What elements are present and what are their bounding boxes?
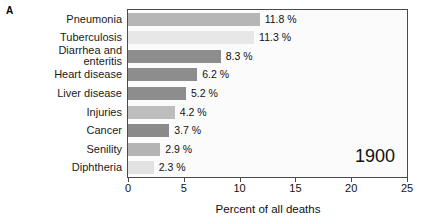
- category-label-line: Tuberculosis: [14, 32, 122, 43]
- category-label: Cancer: [14, 125, 122, 136]
- x-tick-label: 20: [345, 182, 357, 194]
- bar: [128, 68, 197, 81]
- x-tick-label: 5: [181, 182, 187, 194]
- bar-value-label: 2.9 %: [165, 143, 192, 156]
- bar: [128, 106, 175, 119]
- category-label-line: Pneumonia: [14, 14, 122, 25]
- category-label: Tuberculosis: [14, 32, 122, 43]
- x-tick-label: 0: [125, 182, 131, 194]
- bar: [128, 50, 221, 63]
- category-label-line: Senility: [14, 144, 122, 155]
- category-label-line: Cancer: [14, 125, 122, 136]
- category-label: Diarrhea andenteritis: [14, 45, 122, 67]
- bar-value-label: 3.7 %: [174, 124, 201, 137]
- bars-container: 11.8 %11.3 %8.3 %6.2 %5.2 %4.2 %3.7 %2.9…: [128, 10, 407, 177]
- category-label: Senility: [14, 144, 122, 155]
- panel-letter: A: [6, 5, 13, 16]
- bar: [128, 143, 160, 156]
- category-label-line: Injuries: [14, 107, 122, 118]
- category-label-line: Diphtheria: [14, 162, 122, 173]
- category-label: Pneumonia: [14, 14, 122, 25]
- category-label-line: Liver disease: [14, 88, 122, 99]
- x-axis: 0510152025: [128, 178, 408, 200]
- bar-value-label: 11.8 %: [265, 13, 297, 26]
- category-axis-labels: PneumoniaTuberculosisDiarrhea andenterit…: [14, 10, 122, 178]
- bar-value-label: 6.2 %: [202, 68, 229, 81]
- bar-value-label: 4.2 %: [180, 106, 207, 119]
- bar: [128, 124, 169, 137]
- x-tick-label: 15: [289, 182, 301, 194]
- figure-panel-a: A PneumoniaTuberculosisDiarrhea andenter…: [0, 0, 430, 224]
- bar: [128, 31, 254, 44]
- category-label-line: Heart disease: [14, 69, 122, 80]
- category-label: Diphtheria: [14, 162, 122, 173]
- bar-value-label: 5.2 %: [191, 87, 218, 100]
- category-label: Liver disease: [14, 88, 122, 99]
- bar: [128, 161, 154, 174]
- x-tick-label: 10: [233, 182, 245, 194]
- category-label-line: enteritis: [14, 56, 122, 67]
- bar: [128, 13, 260, 26]
- x-tick-label: 25: [401, 182, 413, 194]
- bar: [128, 87, 186, 100]
- bar-value-label: 11.3 %: [259, 31, 291, 44]
- bar-value-label: 8.3 %: [226, 50, 253, 63]
- category-label: Injuries: [14, 107, 122, 118]
- x-axis-title: Percent of all deaths: [128, 203, 408, 215]
- category-label: Heart disease: [14, 69, 122, 80]
- bar-value-label: 2.3 %: [159, 161, 186, 174]
